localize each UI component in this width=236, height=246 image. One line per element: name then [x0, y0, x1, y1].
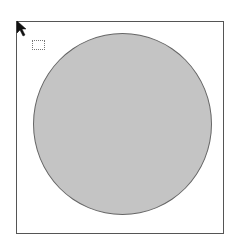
arrow-pointer-icon — [16, 20, 32, 42]
selection-marquee-icon — [32, 40, 45, 50]
circle-shape[interactable] — [33, 33, 212, 215]
